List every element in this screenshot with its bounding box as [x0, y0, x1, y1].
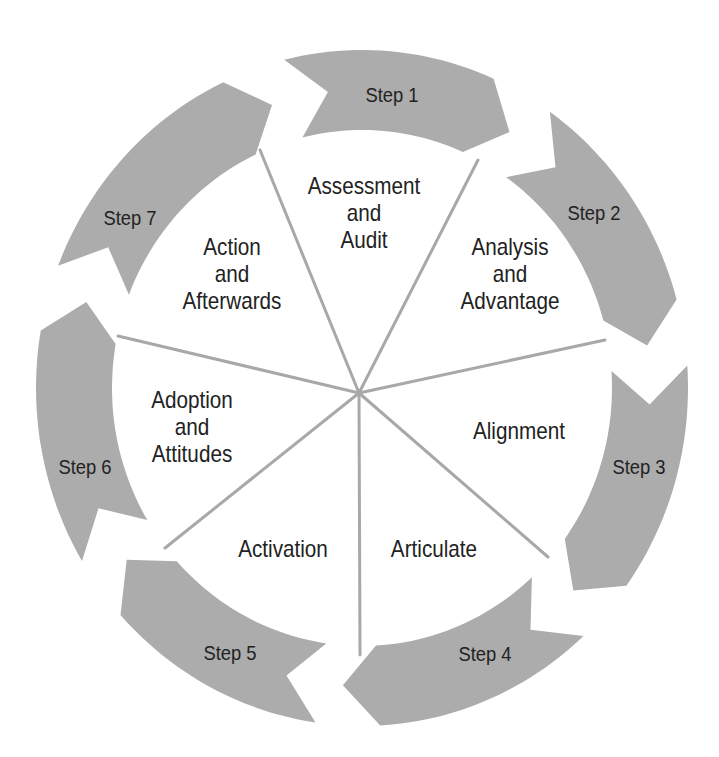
step-6-label: Step 6	[58, 456, 111, 478]
sector-5-line-1: Activation	[238, 536, 328, 562]
sector-2-line-2: and	[493, 261, 528, 287]
step-4-label: Step 4	[458, 643, 511, 665]
spoke-adoption-action	[118, 336, 359, 393]
spoke-analysis-alignment	[359, 340, 605, 393]
sector-analysis-and-advantage: Analysis and Advantage	[461, 234, 560, 314]
sector-6-line-3: Attitudes	[152, 441, 233, 467]
sector-7-line-2: and	[215, 261, 250, 287]
sector-7-line-1: Action	[203, 234, 261, 260]
sector-1-line-2: and	[347, 200, 382, 226]
sector-alignment: Alignment	[473, 418, 565, 444]
step-3-label: Step 3	[612, 456, 665, 478]
step-7-label: Step 7	[103, 207, 156, 229]
sector-1-line-1: Assessment	[308, 173, 421, 199]
step-1-label: Step 1	[365, 84, 418, 106]
sector-adoption-and-attitudes: Adoption and Attitudes	[151, 387, 233, 467]
sector-2-line-1: Analysis	[471, 234, 548, 260]
sector-action-and-afterwards: Action and Afterwards	[183, 234, 282, 314]
step-2-label: Step 2	[567, 202, 620, 224]
step-6-arrow	[36, 302, 147, 561]
sector-6-line-2: and	[175, 414, 210, 440]
sector-3-line-1: Alignment	[473, 418, 565, 444]
sector-4-line-1: Articulate	[391, 536, 477, 562]
sector-6-line-1: Adoption	[151, 387, 233, 413]
sector-7-line-3: Afterwards	[183, 288, 282, 314]
seven-step-cycle-diagram: Step 1 Step 2 Step 3 Step 4 Step 5 Step …	[0, 0, 719, 757]
spoke-articulate-activation	[359, 393, 360, 655]
sector-1-line-3: Audit	[340, 227, 387, 253]
sector-assessment-and-audit: Assessment and Audit	[308, 173, 421, 253]
sector-articulate: Articulate	[391, 536, 477, 562]
sector-activation: Activation	[238, 536, 328, 562]
step-5-arrow	[121, 560, 327, 723]
step-5-label: Step 5	[203, 642, 256, 664]
sector-2-line-3: Advantage	[461, 288, 560, 314]
